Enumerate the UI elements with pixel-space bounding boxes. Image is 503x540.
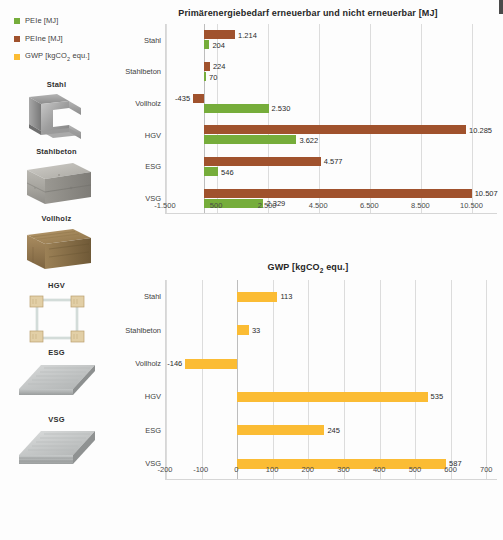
- bar-hgv-a: [204, 125, 466, 134]
- bar-value-label: 70: [209, 72, 217, 81]
- x-tick-label: 500: [210, 201, 223, 210]
- chart-category-row: HGV535: [166, 380, 497, 413]
- sample-vollholz: Vollholz: [0, 214, 113, 277]
- legend-swatch-yellow: [14, 54, 20, 60]
- chart-category-row: Stahl113: [166, 280, 497, 313]
- reinforced-concrete-block-photo: [0, 158, 113, 210]
- sample-caption-stahl: Stahl: [0, 80, 113, 89]
- legend-item-peine: PEIne [MJ]: [14, 30, 114, 47]
- bar-hgv-b: [204, 135, 296, 144]
- toughened-glass-pane-photo: [0, 359, 113, 411]
- x-tick-label: 100: [266, 465, 279, 474]
- sample-hgv: HGV: [0, 281, 113, 344]
- bar-value-label: -435: [175, 94, 190, 103]
- x-tick-label: 0: [234, 465, 238, 474]
- bar-value-label: 10.285: [469, 125, 492, 134]
- x-axis-ticks-gwp: -200-1000100200300400500600700: [165, 462, 497, 476]
- chart-category-row: Vollholz-4352.530: [166, 87, 497, 119]
- bar-value-label: 10.507: [475, 189, 498, 198]
- sample-caption-vsg: VSG: [0, 415, 113, 424]
- bar-esg-a: [237, 425, 324, 435]
- legend-label-gwp: GWP [kgCO2 equ.]: [25, 51, 90, 62]
- bar-stahlbeton-b: [204, 72, 206, 81]
- chart-category-row: Vollholz-146: [166, 346, 497, 379]
- chart-category-row: Stahlbeton33: [166, 313, 497, 346]
- x-tick-label: 500: [409, 465, 422, 474]
- timber-glass-composite-frame-photo: [0, 292, 113, 344]
- x-tick-label: 8.500: [411, 201, 430, 210]
- bar-esg-a: [204, 157, 321, 166]
- category-label-stahlbeton: Stahlbeton: [125, 325, 161, 334]
- plot-area-gwp: Stahl113Stahlbeton33Vollholz-146HGV535ES…: [165, 280, 497, 480]
- steel-profile-photo: [0, 91, 113, 143]
- chart-title-primaerenergiebedarf: Primärenergiebedarf erneuerbar und nicht…: [113, 8, 503, 18]
- legend-label-peie: PEIe [MJ]: [25, 16, 58, 25]
- slide-canvas: PEIe [MJ] PEIne [MJ] GWP [kgCO2 equ.] St…: [0, 0, 503, 540]
- x-tick-label: 10.500: [460, 201, 483, 210]
- sample-caption-stahlbeton: Stahlbeton: [0, 147, 113, 156]
- chart-category-row: Stahl1.214204: [166, 24, 497, 56]
- category-label-hgv: HGV: [145, 392, 161, 401]
- chart-category-row: HGV10.2853.622: [166, 119, 497, 151]
- chart-primaerenergiebedarf: Primärenergiebedarf erneuerbar und nicht…: [113, 8, 503, 246]
- bar-vsg-a: [204, 189, 472, 198]
- bar-value-label: 546: [221, 167, 234, 176]
- category-label-hgv: HGV: [145, 130, 161, 139]
- chart-category-row: ESG4.577546: [166, 151, 497, 183]
- category-label-vollholz: Vollholz: [135, 359, 161, 368]
- bar-value-label: 2.530: [272, 104, 291, 113]
- x-tick-label: -100: [193, 465, 208, 474]
- chart-legend: PEIe [MJ] PEIne [MJ] GWP [kgCO2 equ.]: [14, 12, 114, 66]
- bar-vollholz-a: [185, 359, 237, 369]
- x-tick-label: -1.500: [154, 201, 175, 210]
- category-label-esg: ESG: [145, 425, 161, 434]
- bar-hgv-a: [237, 392, 427, 402]
- legend-swatch-green: [14, 18, 20, 24]
- category-label-vollholz: Vollholz: [135, 99, 161, 108]
- bar-value-label: 3.622: [299, 135, 318, 144]
- x-tick-label: 6.500: [360, 201, 379, 210]
- category-label-stahl: Stahl: [144, 35, 161, 44]
- sample-caption-esg: ESG: [0, 348, 113, 357]
- plot-canvas-pe: Stahl1.214204Stahlbeton22470Vollholz-435…: [165, 24, 497, 214]
- bar-value-label: 535: [431, 392, 444, 401]
- sample-stahl: Stahl: [0, 80, 113, 143]
- chart-category-row: ESG245: [166, 413, 497, 446]
- laminated-safety-glass-pane-photo: [0, 426, 113, 478]
- bar-value-label: 204: [212, 40, 225, 49]
- material-sample-list: Stahl: [0, 80, 113, 482]
- category-label-stahl: Stahl: [144, 292, 161, 301]
- x-tick-label: 600: [444, 465, 457, 474]
- x-tick-label: 2.500: [258, 201, 277, 210]
- bar-stahl-b: [204, 40, 209, 49]
- bar-value-label: 224: [213, 62, 226, 71]
- solid-timber-block-photo: [0, 225, 113, 277]
- x-axis-ticks-pe: -1.5005002.5004.5006.5008.50010.500: [165, 198, 497, 212]
- bar-value-label: 33: [252, 325, 260, 334]
- legend-label-peine: PEIne [MJ]: [25, 34, 63, 43]
- x-tick-label: -200: [157, 465, 172, 474]
- plot-area-primaerenergiebedarf: Stahl1.214204Stahlbeton22470Vollholz-435…: [165, 24, 497, 214]
- bar-stahl-a: [237, 292, 277, 302]
- bar-stahlbeton-a: [204, 62, 210, 71]
- chart-gwp: GWP [kgCO2 equ.] Stahl113Stahlbeton33Vol…: [113, 262, 503, 534]
- x-tick-label: 700: [480, 465, 493, 474]
- category-label-esg: ESG: [145, 162, 161, 171]
- category-label-stahlbeton: Stahlbeton: [125, 67, 161, 76]
- bar-value-label: 4.577: [324, 157, 343, 166]
- bar-esg-b: [204, 167, 218, 176]
- chart-title-gwp: GWP [kgCO2 equ.]: [113, 262, 503, 274]
- x-tick-label: 400: [373, 465, 386, 474]
- legend-item-peie: PEIe [MJ]: [14, 12, 114, 29]
- bar-vollholz-a: [193, 94, 204, 103]
- bar-value-label: -146: [167, 359, 182, 368]
- bar-value-label: 245: [327, 425, 340, 434]
- legend-item-gwp: GWP [kgCO2 equ.]: [14, 48, 114, 65]
- sample-esg: ESG: [0, 348, 113, 411]
- scan-edge-artifact: [499, 0, 503, 14]
- x-tick-label: 300: [337, 465, 350, 474]
- x-tick-label: 200: [302, 465, 315, 474]
- chart-category-row: Stahlbeton22470: [166, 56, 497, 88]
- sample-stahlbeton: Stahlbeton: [0, 147, 113, 210]
- legend-swatch-brown: [14, 36, 20, 42]
